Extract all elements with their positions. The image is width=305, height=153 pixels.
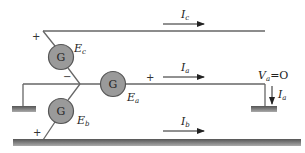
generator-ec: G [49, 45, 74, 70]
eb-plus-sign: + [33, 127, 41, 138]
ia-ground-label: Ia [277, 88, 287, 102]
ia-label: Ia [180, 61, 190, 75]
eb-label: Eb [76, 114, 90, 128]
generator-eb: G [49, 99, 74, 124]
ec-minus-sign: − [63, 71, 71, 82]
three-phase-generator-diagram: G + − Ec G + Ea G + Eb Ic Ia Ib Ia Va=O [0, 0, 305, 153]
svg-text:G: G [57, 105, 66, 118]
ec-label: Ec [73, 42, 86, 56]
ib-label: Ib [180, 115, 190, 129]
bottom-ground-bar [13, 139, 301, 146]
svg-text:G: G [57, 51, 66, 64]
va-label: Va=O [258, 69, 288, 83]
left-ground [12, 106, 36, 112]
ec-plus-sign: + [32, 31, 40, 42]
ea-plus-sign: + [146, 72, 154, 83]
wire-ec-to-top [43, 31, 55, 46]
right-ground [251, 106, 277, 112]
ic-label: Ic [180, 8, 189, 22]
wire-junction-to-eb [68, 84, 80, 100]
svg-text:G: G [109, 78, 118, 91]
wire-eb-to-bottom [43, 122, 55, 140]
generator-ea: G [101, 72, 126, 97]
ea-label: Ea [126, 91, 139, 105]
